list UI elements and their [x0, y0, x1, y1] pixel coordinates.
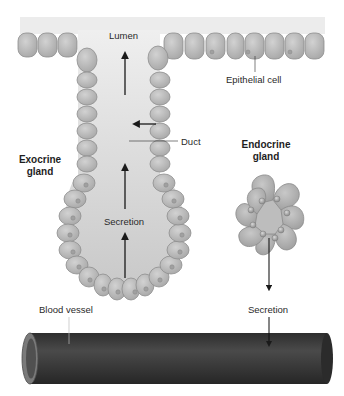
exocrine-gland-label-line1: Exocrine: [14, 154, 66, 166]
epithelial-cell-label: Epithelial cell: [226, 75, 281, 85]
exocrine-gland-label-line2: gland: [14, 166, 66, 178]
endocrine-gland-label: Endocrine gland: [236, 139, 296, 162]
lumen-label: Lumen: [109, 31, 138, 41]
endocrine-secretion-label: Secretion: [248, 305, 288, 315]
lumen-surface: [20, 17, 325, 34]
exocrine-gland-label: Exocrine gland: [14, 154, 66, 177]
blood-vessel-label: Blood vessel: [39, 305, 93, 315]
exocrine-secretion-label: Secretion: [104, 217, 144, 227]
endocrine-gland-label-line1: Endocrine: [236, 139, 296, 151]
duct-cells-left: [77, 48, 97, 172]
endocrine-gland-label-line2: gland: [236, 151, 296, 163]
epithelial-cells-top-right: [164, 33, 324, 59]
epithelial-cells-top-left: [18, 33, 77, 57]
duct-label: Duct: [181, 137, 201, 147]
endocrine-gland: [236, 175, 304, 255]
gland-diagram: [0, 0, 344, 396]
